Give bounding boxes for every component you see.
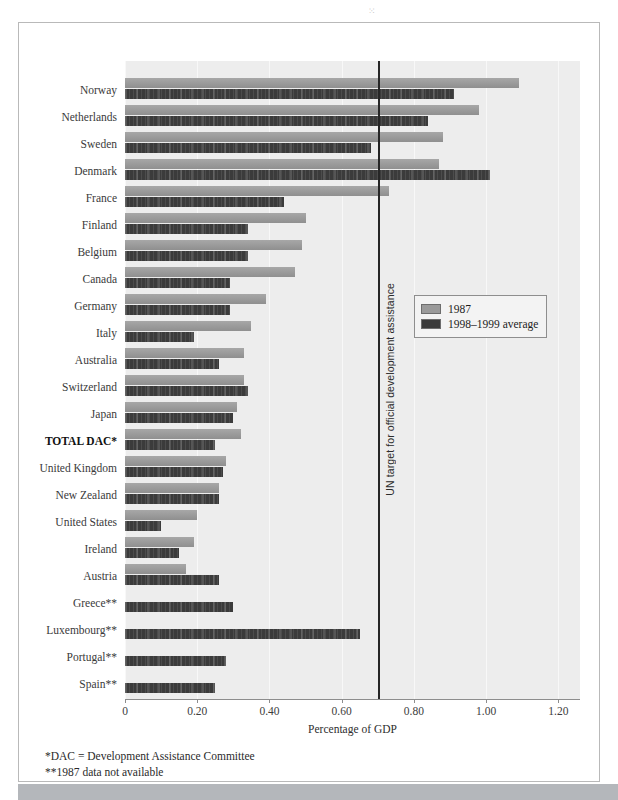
x-axis-tick (342, 699, 343, 703)
x-axis-tick-label: 1.20 (548, 705, 568, 717)
chart-row (125, 266, 580, 293)
bar-1998-1999 (125, 575, 219, 585)
category-label: Belgium (19, 246, 117, 258)
bar-1987 (125, 159, 439, 169)
chart-row (125, 455, 580, 482)
bar-1998-1999 (125, 386, 248, 396)
x-axis-line (125, 699, 580, 700)
footnote-no-data: **1987 data not available (45, 766, 163, 778)
x-axis-tick-label: 0.40 (259, 705, 279, 717)
bar-1998-1999 (125, 521, 161, 531)
category-label: Luxembourg** (19, 624, 117, 636)
chart-row (125, 401, 580, 428)
bar-1998-1999 (125, 440, 215, 450)
footnote-dac: *DAC = Development Assistance Committee (45, 750, 255, 762)
bar-1987 (125, 564, 186, 574)
legend-item: 1998–1999 average (421, 317, 538, 331)
scan-bottom-strip (18, 784, 618, 800)
x-axis-tick-label: 1.00 (476, 705, 496, 717)
x-axis-tick (414, 699, 415, 703)
legend-swatch-1998-1999 (421, 319, 441, 329)
chart-legend: 1987 1998–1999 average (414, 295, 547, 338)
bar-1998-1999 (125, 197, 284, 207)
bar-1987 (125, 78, 519, 88)
category-label: New Zealand (19, 489, 117, 501)
bar-1998-1999 (125, 224, 248, 234)
bar-1998-1999 (125, 143, 371, 153)
bar-1987 (125, 456, 226, 466)
bar-1998-1999 (125, 305, 230, 315)
scanned-page: ⁙ UN target for official development ass… (0, 0, 618, 800)
x-axis-tick-label: 0.80 (404, 705, 424, 717)
chart-row (125, 617, 580, 644)
x-axis-tick-label: 0 (122, 705, 128, 717)
bar-1987 (125, 429, 241, 439)
chart-row (125, 536, 580, 563)
x-axis-tick (486, 699, 487, 703)
chart-row (125, 185, 580, 212)
bar-1998-1999 (125, 602, 233, 612)
bar-1998-1999 (125, 467, 223, 477)
category-label: Netherlands (19, 111, 117, 123)
chart-row (125, 239, 580, 266)
x-axis-tick (558, 699, 559, 703)
scan-speckle: ⁙ (368, 6, 374, 12)
legend-item: 1987 (421, 302, 538, 316)
bar-1998-1999 (125, 413, 233, 423)
bar-1998-1999 (125, 278, 230, 288)
chart-row (125, 131, 580, 158)
chart-row (125, 374, 580, 401)
category-label: Norway (19, 84, 117, 96)
category-label: Switzerland (19, 381, 117, 393)
category-label: Finland (19, 219, 117, 231)
chart-plot-area: UN target for official development assis… (125, 61, 580, 699)
bar-1987 (125, 483, 219, 493)
bar-1998-1999 (125, 548, 179, 558)
bar-1998-1999 (125, 116, 428, 126)
bar-1987 (125, 321, 251, 331)
bar-1987 (125, 294, 266, 304)
category-label: United Kingdom (19, 462, 117, 474)
bar-1987 (125, 375, 244, 385)
category-label: Germany (19, 300, 117, 312)
category-label: Japan (19, 408, 117, 420)
bar-1998-1999 (125, 332, 194, 342)
bar-1987 (125, 402, 237, 412)
chart-row (125, 509, 580, 536)
x-axis-tick (125, 699, 126, 703)
category-label: Austria (19, 570, 117, 582)
chart-row (125, 77, 580, 104)
un-target-reference-label: UN target for official development assis… (384, 283, 396, 496)
bar-1987 (125, 240, 302, 250)
bar-1987 (125, 510, 197, 520)
chart-row (125, 563, 580, 590)
bar-1987 (125, 186, 389, 196)
bar-1998-1999 (125, 683, 215, 693)
legend-label-1998-1999: 1998–1999 average (448, 318, 538, 330)
un-target-reference-line (378, 61, 380, 699)
category-label: Portugal** (19, 651, 117, 663)
chart-row (125, 482, 580, 509)
bar-1998-1999 (125, 629, 360, 639)
category-label: Sweden (19, 138, 117, 150)
chart-row (125, 158, 580, 185)
chart-row (125, 104, 580, 131)
chart-row (125, 671, 580, 698)
bar-1998-1999 (125, 170, 490, 180)
bar-1987 (125, 537, 194, 547)
category-label: Spain** (19, 678, 117, 690)
category-label: Denmark (19, 165, 117, 177)
chart-row (125, 590, 580, 617)
x-axis-tick-label: 0.60 (332, 705, 352, 717)
bar-1998-1999 (125, 494, 219, 504)
chart-row (125, 347, 580, 374)
page-frame: UN target for official development assis… (18, 22, 600, 782)
bar-1987 (125, 105, 479, 115)
bar-1998-1999 (125, 251, 248, 261)
category-label: TOTAL DAC* (19, 435, 117, 447)
bar-1998-1999 (125, 359, 219, 369)
x-axis-tick (269, 699, 270, 703)
chart-row (125, 212, 580, 239)
category-label: Australia (19, 354, 117, 366)
category-label: Italy (19, 327, 117, 339)
